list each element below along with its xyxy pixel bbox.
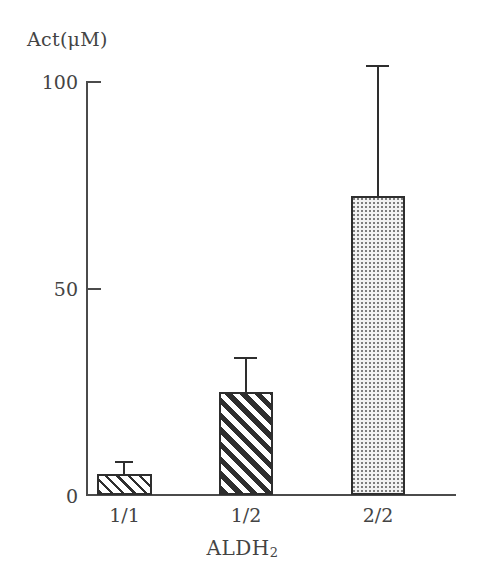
y-tick-label-0: 0 (34, 485, 78, 507)
error-bar-stem-2-2 (377, 66, 379, 198)
x-axis-title-subscript: 2 (270, 545, 279, 560)
x-tick-label-2-2: 2/2 (351, 504, 405, 526)
bar-chart-figure: Act(μM) 100 50 0 1/1 1/2 2/2 ALDH2 (0, 0, 485, 583)
y-tick-100-mark (88, 81, 101, 83)
bar-1-1[interactable] (97, 474, 152, 495)
error-bar-stem-1-2 (245, 358, 247, 394)
x-tick-label-1-1: 1/1 (97, 504, 152, 526)
error-bar-stem-1-1 (123, 462, 125, 476)
bar-1-2[interactable] (219, 392, 273, 495)
error-bar-cap-1-2 (234, 357, 257, 359)
error-bar-cap-1-1 (115, 461, 133, 463)
x-tick-label-1-2: 1/2 (219, 504, 273, 526)
y-tick-50-mark (88, 288, 101, 290)
bar-2-2[interactable] (351, 196, 405, 495)
x-axis-title: ALDH2 (0, 536, 485, 560)
error-bar-cap-2-2 (366, 65, 389, 67)
plot-area: 100 50 0 1/1 1/2 2/2 ALDH2 (0, 0, 485, 583)
y-tick-label-100: 100 (34, 71, 78, 93)
x-axis-title-base: ALDH (207, 536, 270, 560)
y-tick-label-50: 50 (34, 278, 78, 300)
